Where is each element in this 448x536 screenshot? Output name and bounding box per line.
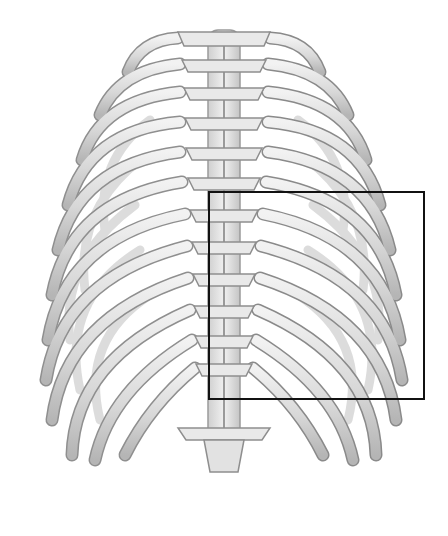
left-ribs bbox=[46, 38, 195, 460]
highlight-rectangle bbox=[208, 191, 425, 400]
